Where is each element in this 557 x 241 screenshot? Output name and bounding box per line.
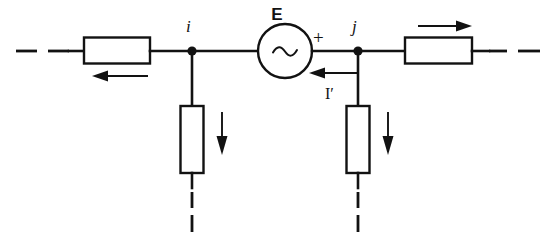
left-shunt-branch xyxy=(181,51,204,232)
left-series-impedance xyxy=(69,38,189,64)
source-current-label: I′ xyxy=(325,85,334,102)
left-branch-current-arrow xyxy=(92,71,148,82)
right-branch-current-arrow xyxy=(418,21,472,32)
circuit-canvas: i E + xyxy=(0,0,557,241)
ac-voltage-source xyxy=(258,24,312,78)
polarity-plus-label: + xyxy=(313,27,324,48)
circuit-diagram: i E + xyxy=(0,0,557,241)
node-i-label: i xyxy=(186,17,191,36)
right-shunt-branch xyxy=(347,51,370,232)
right-shunt-current-arrow xyxy=(383,112,394,155)
source-current-arrow xyxy=(309,68,358,79)
source-label: E xyxy=(271,5,282,24)
node-j-label: j xyxy=(350,17,357,36)
right-series-impedance xyxy=(358,38,489,64)
left-shunt-current-arrow xyxy=(217,112,228,155)
